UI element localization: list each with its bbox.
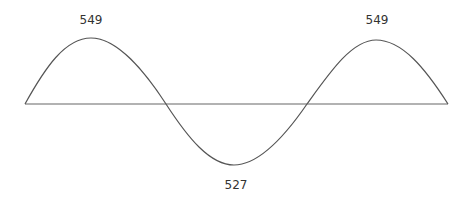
trough-label: 527 (225, 178, 248, 192)
wave-chart: 549 527 549 (0, 0, 471, 198)
peak-right-label: 549 (366, 13, 389, 27)
wave-line (25, 38, 448, 165)
peak-left-label: 549 (80, 13, 103, 27)
